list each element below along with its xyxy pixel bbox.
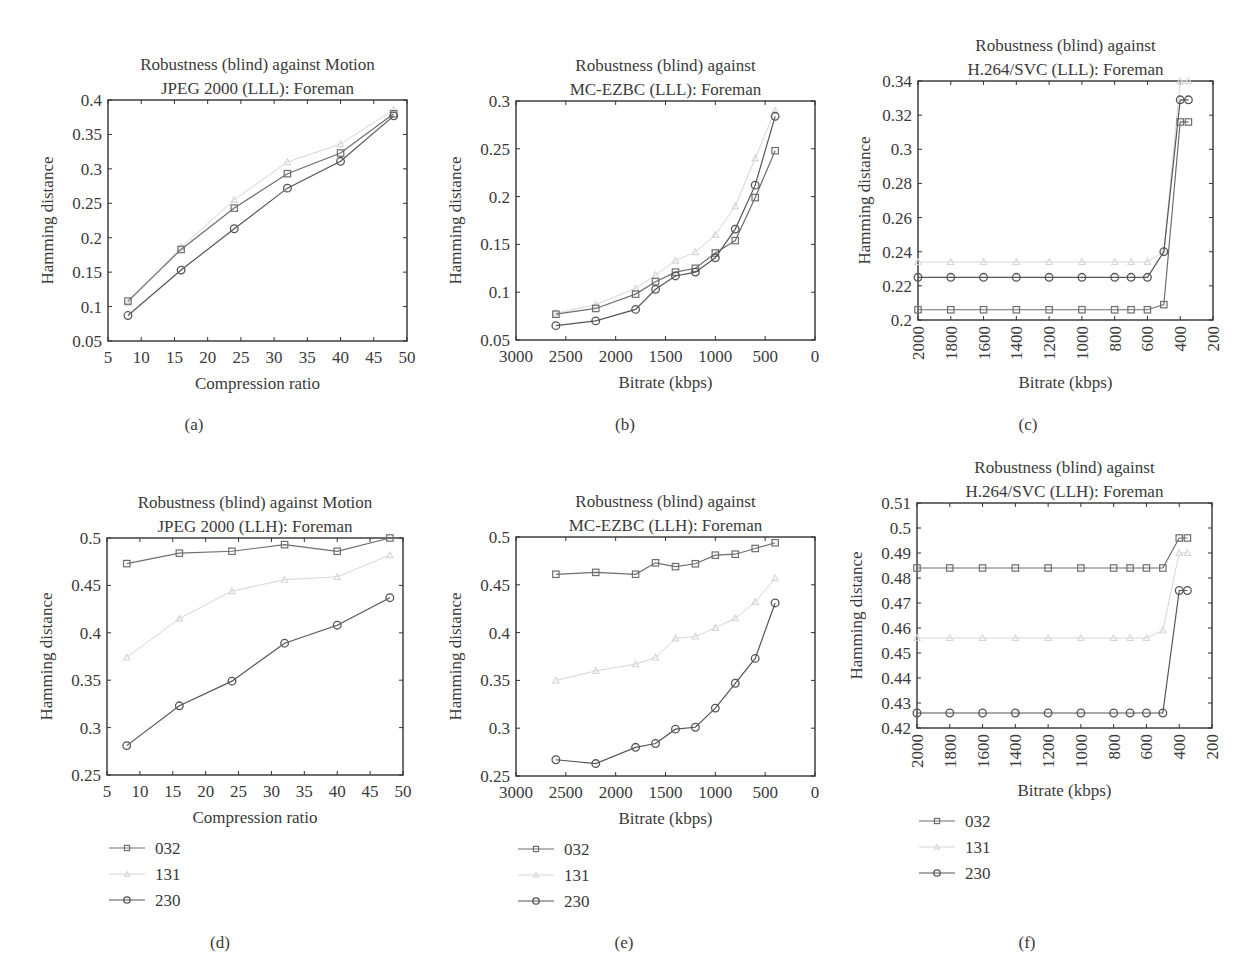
x-tick-label: 35 xyxy=(299,348,316,367)
plot-area xyxy=(516,101,815,340)
triangle-marker-icon xyxy=(652,654,658,660)
x-tick-label: 10 xyxy=(131,782,148,801)
triangle-marker-icon xyxy=(553,677,559,683)
y-tick-label: 0.1 xyxy=(81,298,102,317)
triangle-marker-icon xyxy=(632,285,638,291)
series-032 xyxy=(553,540,779,578)
caption-c: (c) xyxy=(998,415,1058,435)
triangle-marker-icon xyxy=(533,872,538,877)
circle-marker-icon xyxy=(228,677,236,685)
series-131 xyxy=(914,550,1191,641)
y-tick-label: 0.25 xyxy=(480,140,510,159)
y-tick-label: 0.4 xyxy=(80,624,102,643)
triangle-marker-icon xyxy=(772,575,778,581)
plot-area xyxy=(917,503,1212,728)
legend-label: 032 xyxy=(155,839,181,858)
x-tick-label: 1400 xyxy=(1006,734,1025,768)
plot-area xyxy=(108,100,407,341)
caption-a: (a) xyxy=(164,415,224,435)
legend-item-032: 032 xyxy=(109,839,181,858)
y-tick-label: 0.5 xyxy=(80,529,101,548)
x-tick-label: 0 xyxy=(811,347,820,366)
y-tick-label: 0.3 xyxy=(489,92,510,111)
y-tick-label: 0.05 xyxy=(480,331,510,350)
series-230 xyxy=(913,587,1191,717)
circle-marker-icon xyxy=(177,266,185,274)
square-marker-icon xyxy=(593,569,599,575)
square-marker-icon xyxy=(712,552,718,558)
x-tick-label: 50 xyxy=(395,782,412,801)
triangle-marker-icon xyxy=(732,615,738,621)
x-tick-label: 600 xyxy=(1137,734,1156,760)
circle-marker-icon xyxy=(980,274,988,282)
figure-canvas: Robustness (blind) against MotionJPEG 20… xyxy=(0,0,1252,977)
x-tick-label: 1000 xyxy=(1072,734,1091,768)
y-axis-label: Hamming distance xyxy=(847,552,866,680)
circle-marker-icon xyxy=(771,599,779,607)
triangle-marker-icon xyxy=(334,574,340,580)
y-tick-label: 0.28 xyxy=(882,174,912,193)
legend-label: 131 xyxy=(564,866,590,885)
circle-marker-icon xyxy=(1013,274,1021,282)
triangle-marker-icon xyxy=(632,661,638,667)
triangle-marker-icon xyxy=(1160,627,1166,633)
square-marker-icon xyxy=(231,205,237,211)
circle-marker-icon xyxy=(1143,709,1151,717)
y-axis-label: Hamming distance xyxy=(446,593,465,721)
series-131 xyxy=(124,552,394,660)
circle-marker-icon xyxy=(284,184,292,192)
y-tick-label: 0.25 xyxy=(480,767,510,786)
x-tick-label: 40 xyxy=(332,348,349,367)
legend-item-131: 131 xyxy=(109,865,181,884)
square-marker-icon xyxy=(284,170,290,176)
x-tick-label: 0 xyxy=(811,783,820,802)
square-marker-icon xyxy=(1127,565,1133,571)
circle-marker-icon xyxy=(1110,709,1118,717)
triangle-marker-icon xyxy=(692,633,698,639)
x-tick-label: 1200 xyxy=(1040,326,1059,360)
circle-marker-icon xyxy=(1077,709,1085,717)
square-marker-icon xyxy=(1144,307,1150,313)
triangle-marker-icon xyxy=(915,259,921,265)
square-marker-icon xyxy=(1013,307,1019,313)
y-tick-label: 0.42 xyxy=(881,719,911,738)
x-tick-label: 2000 xyxy=(599,347,633,366)
y-axis-label: Hamming distance xyxy=(38,157,57,285)
x-axis-label: Compression ratio xyxy=(195,374,320,393)
x-tick-label: 5 xyxy=(103,782,112,801)
chart-title: MC-EZBC (LLL): Foreman xyxy=(570,80,762,99)
triangle-marker-icon xyxy=(1110,635,1116,641)
triangle-marker-icon xyxy=(672,635,678,641)
x-tick-label: 400 xyxy=(1171,326,1190,352)
triangle-marker-icon xyxy=(231,197,237,203)
chart-title: JPEG 2000 (LLH): Foreman xyxy=(157,517,353,536)
triangle-marker-icon xyxy=(125,300,131,306)
series-032 xyxy=(124,535,394,567)
circle-marker-icon xyxy=(1127,274,1135,282)
square-marker-icon xyxy=(752,194,758,200)
x-tick-label: 800 xyxy=(1106,326,1125,352)
square-marker-icon xyxy=(652,560,658,566)
chart-b-group: Robustness (blind) againstMC-EZBC (LLL):… xyxy=(446,56,819,392)
square-marker-icon xyxy=(712,250,718,256)
triangle-marker-icon xyxy=(1111,259,1117,265)
square-marker-icon xyxy=(752,545,758,551)
y-tick-label: 0.3 xyxy=(891,140,912,159)
triangle-marker-icon xyxy=(229,588,235,594)
circle-marker-icon xyxy=(552,322,560,330)
series-131 xyxy=(553,107,779,315)
triangle-marker-icon xyxy=(1046,259,1052,265)
square-marker-icon xyxy=(980,307,986,313)
x-tick-label: 800 xyxy=(1105,734,1124,760)
y-tick-label: 0.44 xyxy=(881,669,911,688)
triangle-marker-icon xyxy=(1177,78,1183,84)
chart-title: MC-EZBC (LLH): Foreman xyxy=(569,516,763,535)
triangle-marker-icon xyxy=(284,159,290,165)
y-tick-label: 0.05 xyxy=(72,332,102,351)
triangle-marker-icon xyxy=(752,155,758,161)
square-marker-icon xyxy=(1177,119,1183,125)
y-tick-label: 0.3 xyxy=(81,160,102,179)
y-tick-label: 0.15 xyxy=(480,235,510,254)
square-marker-icon xyxy=(391,111,397,117)
x-axis-label: Compression ratio xyxy=(192,808,317,827)
